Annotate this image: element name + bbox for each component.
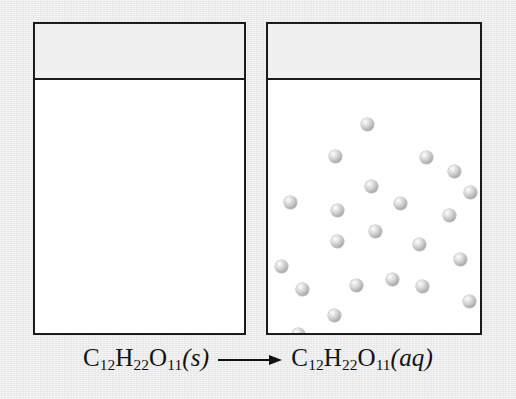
reactant-state: (s) — [182, 344, 209, 371]
solute-sphere — [365, 180, 378, 193]
reactant-o: O — [149, 344, 167, 371]
solute-sphere — [443, 209, 456, 222]
solute-sphere — [394, 197, 407, 210]
solute-sphere — [464, 186, 477, 199]
beaker-headspace-left — [35, 24, 244, 80]
solute-sphere — [416, 280, 429, 293]
product-h: H — [324, 344, 342, 371]
solute-sphere — [350, 279, 363, 292]
product-state: (aq) — [391, 344, 433, 371]
solute-sphere — [275, 260, 288, 273]
reactant-h-sub: 22 — [134, 356, 150, 373]
solute-sphere — [413, 238, 426, 251]
right-arrow-icon — [218, 348, 282, 373]
solute-sphere — [328, 309, 341, 322]
product-formula: C12H22O11(aq) — [291, 344, 433, 371]
beaker-headspace-right — [268, 24, 480, 80]
product-c: C — [291, 344, 308, 371]
solute-sphere — [361, 118, 374, 131]
solute-sphere — [463, 295, 476, 308]
product-o-sub: 11 — [376, 356, 391, 373]
product-h-sub: 22 — [342, 356, 358, 373]
solute-sphere — [292, 328, 305, 333]
solute-sphere — [448, 165, 461, 178]
product-c-sub: 12 — [308, 356, 324, 373]
reactant-c-sub: 12 — [100, 356, 116, 373]
solute-sphere — [329, 150, 342, 163]
equation-caption: C12H22O11(s)C12H22O11(aq) — [0, 344, 516, 374]
solute-sphere — [284, 196, 297, 209]
reactant-c: C — [83, 344, 100, 371]
solute-sphere — [420, 151, 433, 164]
solute-sphere — [386, 273, 399, 286]
reactant-formula: C12H22O11(s) — [83, 344, 209, 371]
solute-sphere — [331, 204, 344, 217]
solute-sphere — [454, 253, 467, 266]
reactant-o-sub: 11 — [167, 356, 182, 373]
reactant-h: H — [115, 344, 133, 371]
beaker-liquid-left — [35, 80, 244, 333]
solute-sphere — [331, 235, 344, 248]
beaker-liquid-right — [268, 80, 480, 333]
solute-sphere — [369, 225, 382, 238]
aqueous-sucrose-beaker — [266, 22, 482, 335]
product-o: O — [357, 344, 375, 371]
solute-sphere — [296, 283, 309, 296]
chemistry-figure: C12H22O11(s)C12H22O11(aq) — [0, 0, 516, 399]
solid-sucrose-beaker — [33, 22, 246, 335]
